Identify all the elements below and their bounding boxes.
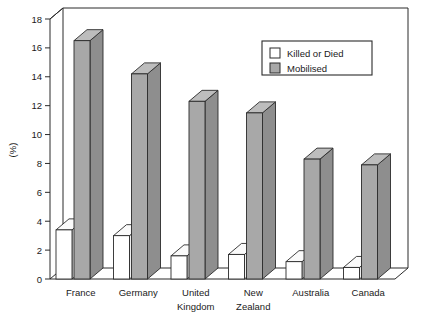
bar-mobilised-1: [132, 63, 161, 279]
x-axis-label-3: Zealand: [236, 301, 270, 312]
x-axis-label-5: Canada: [352, 287, 386, 298]
bar-side-face: [148, 63, 161, 279]
bar-front-face: [74, 41, 90, 279]
bar-side-face: [205, 90, 218, 279]
bar-side-face: [378, 154, 391, 279]
y-axis-title-text: (%): [7, 143, 18, 158]
bar-front-face: [171, 256, 187, 279]
x-axis-label-2: Kingdom: [177, 301, 215, 312]
bar-mobilised-0: [74, 30, 103, 279]
bar-front-face: [286, 262, 302, 279]
y-tick-label: 14: [31, 71, 42, 82]
white-swatch-icon: [270, 48, 280, 58]
x-axis-label-2: United: [182, 287, 209, 298]
chart-legend: Killed or DiedMobilised: [262, 41, 372, 75]
bar-mobilised-3: [247, 102, 276, 279]
bar-front-face: [304, 159, 320, 279]
bar-front-face: [189, 101, 205, 279]
bar-front-face: [229, 254, 245, 279]
x-axis-label-4: Australia: [292, 287, 330, 298]
x-axis-label-0: France: [66, 287, 96, 298]
y-axis-ticks: 024681012141618: [31, 14, 50, 285]
bar-front-face: [344, 267, 360, 279]
bar-front-face: [114, 236, 130, 279]
y-tick-label: 8: [37, 158, 42, 169]
y-tick-label: 6: [37, 187, 42, 198]
legend-label-0: Killed or Died: [287, 48, 344, 59]
y-tick-label: 16: [31, 42, 42, 53]
bar-side-face: [320, 148, 333, 279]
chart-container: 024681012141618 FranceGermanyUnitedKingd…: [0, 0, 421, 329]
bar-mobilised-4: [304, 148, 333, 279]
bar-front-face: [132, 74, 148, 279]
x-axis-category-labels: FranceGermanyUnitedKingdomNewZealandAust…: [66, 287, 386, 312]
x-axis-label-1: Germany: [119, 287, 158, 298]
y-axis-title: (%): [7, 143, 18, 158]
y-tick-label: 10: [31, 129, 42, 140]
y-tick-label: 4: [37, 216, 42, 227]
top-connector: [50, 8, 63, 19]
bar-side-face: [90, 30, 103, 279]
y-tick-label: 18: [31, 14, 42, 25]
bar-front-face: [362, 165, 378, 279]
gray-swatch-icon: [270, 63, 280, 73]
bar-side-face: [263, 102, 276, 279]
bar-mobilised-2: [189, 90, 218, 279]
x-axis-label-3: New: [244, 287, 263, 298]
bar-chart: 024681012141618 FranceGermanyUnitedKingd…: [0, 0, 421, 329]
y-tick-label: 12: [31, 100, 42, 111]
y-tick-label: 2: [37, 245, 42, 256]
bar-front-face: [247, 113, 263, 279]
bar-front-face: [56, 230, 72, 279]
y-tick-label: 0: [37, 274, 42, 285]
legend-label-1: Mobilised: [287, 63, 327, 74]
bar-mobilised-5: [362, 154, 391, 279]
